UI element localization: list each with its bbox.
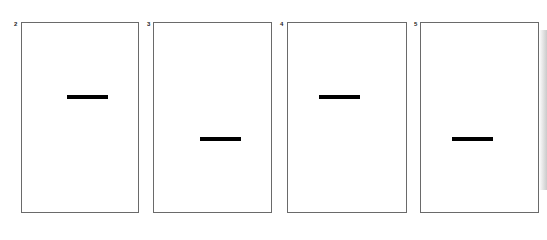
horizontal-bar	[319, 95, 360, 99]
horizontal-bar	[67, 95, 108, 99]
panel-number: 3	[147, 21, 150, 27]
panel-number: 2	[14, 21, 17, 27]
panel-number: 5	[414, 21, 417, 27]
panel-number: 4	[280, 21, 283, 27]
panel-4	[287, 22, 407, 213]
panel-3	[153, 22, 272, 213]
panel-2	[21, 22, 139, 213]
horizontal-bar	[200, 137, 241, 141]
horizontal-bar	[452, 137, 493, 141]
page-edge-shadow	[539, 30, 547, 190]
panel-5	[420, 22, 539, 213]
